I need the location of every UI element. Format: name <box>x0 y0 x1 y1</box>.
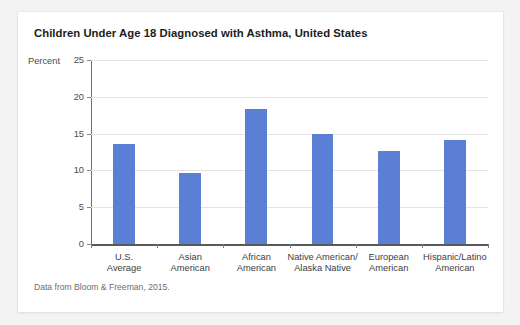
x-axis-tick-mark <box>422 244 423 248</box>
y-axis-tick-label: 5 <box>79 202 84 212</box>
y-axis-tick-label: 15 <box>74 129 84 139</box>
x-axis-tick-mark <box>223 244 224 248</box>
y-axis-tick-mark <box>87 60 91 61</box>
bar <box>378 151 400 244</box>
x-axis-tick-mark <box>91 244 92 248</box>
x-axis-tick-label: Hispanic/Latino American <box>416 252 494 275</box>
y-axis-spine <box>91 60 92 244</box>
x-axis-tick-mark <box>488 244 489 248</box>
bar <box>179 173 201 244</box>
y-axis-tick-label: 20 <box>74 92 84 102</box>
y-axis-tick-mark <box>87 170 91 171</box>
y-axis-tick-label: 0 <box>79 239 84 249</box>
gridline <box>91 170 488 171</box>
plot-area: 0510152025 U.S. AverageAsian AmericanAfr… <box>91 60 488 244</box>
bar <box>444 140 466 244</box>
y-axis-tick-mark <box>87 134 91 135</box>
page-title: Children Under Age 18 Diagnosed with Ast… <box>34 27 368 39</box>
bar <box>245 109 267 244</box>
bar <box>113 144 135 244</box>
chart-card: Children Under Age 18 Diagnosed with Ast… <box>18 12 503 312</box>
chart-source-note: Data from Bloom & Freeman, 2015. <box>34 282 170 292</box>
x-axis-tick-mark <box>356 244 357 248</box>
bar <box>312 134 334 244</box>
y-axis-tick-label: 10 <box>74 165 84 175</box>
y-axis-label: Percent <box>28 56 60 66</box>
gridline <box>91 134 488 135</box>
y-axis-tick-mark <box>87 97 91 98</box>
gridline <box>91 97 488 98</box>
y-axis-tick-mark <box>87 207 91 208</box>
x-axis-tick-mark <box>157 244 158 248</box>
page-background: Children Under Age 18 Diagnosed with Ast… <box>0 0 520 325</box>
gridline <box>91 60 488 61</box>
x-axis-tick-mark <box>290 244 291 248</box>
gridline <box>91 207 488 208</box>
y-axis-tick-label: 25 <box>74 55 84 65</box>
